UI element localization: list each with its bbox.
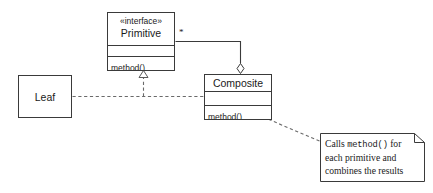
hollow-diamond-marker (237, 64, 244, 74)
attributes-compartment-composite (205, 92, 271, 106)
stereotype-label: «interface» (108, 17, 174, 27)
class-header-composite: Composite (205, 75, 271, 92)
class-box-leaf[interactable]: Leaf (18, 75, 72, 118)
aggregation-connector (176, 42, 245, 74)
multiplicity-label: * (179, 28, 184, 37)
note-line-1-pre: Calls (325, 138, 347, 149)
note-line-2: each primitive and (325, 151, 421, 164)
class-name-label: Primitive (108, 27, 174, 39)
class-box-composite[interactable]: Composite method() (204, 74, 272, 120)
class-name-label: Leaf (19, 91, 71, 103)
operation-label: method() (205, 112, 242, 119)
note-body: Calls method() for each primitive and co… (325, 137, 421, 178)
hollow-triangle-marker (139, 71, 148, 78)
operations-compartment-composite: method() (205, 106, 271, 119)
attributes-compartment-primitive (108, 46, 174, 57)
operations-compartment-primitive: method() (108, 57, 174, 70)
note-line-3: combines the results (325, 164, 421, 177)
class-box-primitive[interactable]: «interface» Primitive method() (107, 12, 175, 71)
class-name-label: Composite (205, 77, 271, 89)
realization-connector (73, 71, 205, 97)
uml-diagram-canvas: «interface» Primitive method() * Composi… (0, 0, 433, 193)
note-line-1-post: for (388, 138, 402, 149)
class-header-primitive: «interface» Primitive (108, 13, 174, 46)
note-line-1-code: method() (347, 140, 388, 150)
note-line-1: Calls method() for (325, 137, 421, 151)
operation-label: method() (108, 63, 145, 70)
